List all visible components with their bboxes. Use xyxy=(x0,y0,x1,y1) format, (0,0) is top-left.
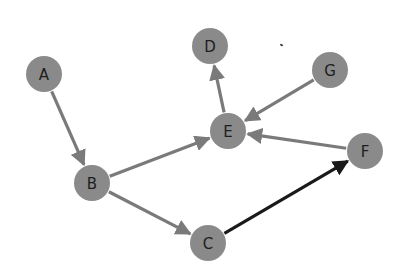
node-label: F xyxy=(361,143,370,161)
node-c: C xyxy=(190,225,226,261)
node-label: G xyxy=(324,62,336,80)
node-b: B xyxy=(74,165,110,201)
edge-a-to-b xyxy=(52,91,84,164)
node-a: A xyxy=(26,56,62,92)
edges-layer xyxy=(52,66,348,234)
node-label: D xyxy=(204,38,216,56)
edge-e-to-d xyxy=(214,66,224,113)
edge-g-to-e xyxy=(245,80,314,121)
edge-c-to-f xyxy=(224,161,347,233)
node-label: B xyxy=(87,175,97,193)
edge-b-to-e xyxy=(110,138,210,176)
node-e: E xyxy=(210,113,246,149)
graph-canvas: ABCDEFG xyxy=(0,0,410,276)
edge-f-to-e xyxy=(248,134,346,148)
edge-b-to-c xyxy=(109,192,190,234)
node-d: D xyxy=(192,28,228,64)
node-g: G xyxy=(312,52,348,88)
node-label: C xyxy=(203,235,213,253)
node-label: E xyxy=(223,123,232,141)
node-f: F xyxy=(347,133,383,169)
node-label: A xyxy=(39,66,50,84)
